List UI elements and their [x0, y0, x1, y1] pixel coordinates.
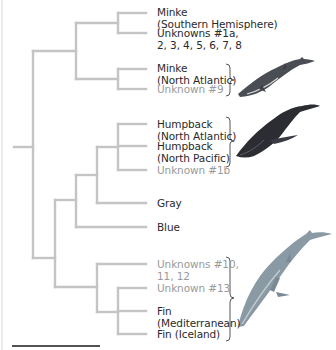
leaf-label-line: Blue	[157, 221, 180, 233]
leaf-label-line: Unknown #1b	[157, 164, 230, 176]
leaf-unknowns-10-12: Unknowns #10, 11, 12	[157, 258, 239, 282]
leaf-label-line: Humpback	[157, 140, 230, 152]
leaf-label-line: Gray	[157, 197, 182, 209]
group-braces	[226, 64, 234, 341]
leaf-label-line: Unknowns #10,	[157, 258, 239, 270]
phylogenetic-tree-diagram: Minke (Southern Hemisphere) Unknowns #1a…	[0, 0, 336, 350]
leaf-unknowns-1a-8: Unknowns #1a, 2, 3, 4, 5, 6, 7, 8	[157, 27, 242, 51]
leaf-fin-iceland: Fin (Iceland)	[157, 328, 220, 340]
leaf-unknown-9: Unknown #9	[157, 83, 224, 95]
leaf-unknown-13: Unknown #13	[157, 282, 230, 294]
leaf-blue: Blue	[157, 221, 180, 233]
leaf-label-line: 11, 12	[157, 270, 239, 282]
leaf-label-line: Unknowns #1a,	[157, 27, 242, 39]
leaf-label-line: 2, 3, 4, 5, 6, 7, 8	[157, 39, 242, 51]
leaf-label-line: Unknown #13	[157, 282, 230, 294]
leaf-fin-mediterranean: Fin (Mediterranean)	[157, 305, 240, 329]
leaf-unknown-1b: Unknown #1b	[157, 164, 230, 176]
leaf-label-line: Minke	[157, 62, 236, 74]
leaf-label-line: (North Pacific)	[157, 152, 230, 164]
leaf-label-line: Humpback	[157, 118, 236, 130]
leaf-label-line: Fin	[157, 305, 240, 317]
fin-whale-illustration	[238, 230, 332, 327]
leaf-humpback-north-pacific: Humpback (North Pacific)	[157, 140, 230, 164]
humpback-whale-illustration	[236, 105, 320, 158]
minke-whale-illustration	[238, 57, 315, 97]
leaf-gray: Gray	[157, 197, 182, 209]
leaf-humpback-north-atlantic: Humpback (North Atlantic)	[157, 118, 236, 142]
leaf-label-line: Fin (Iceland)	[157, 328, 220, 340]
leaf-label-line: Unknown #9	[157, 83, 224, 95]
leaf-label-line: Minke	[157, 6, 278, 18]
